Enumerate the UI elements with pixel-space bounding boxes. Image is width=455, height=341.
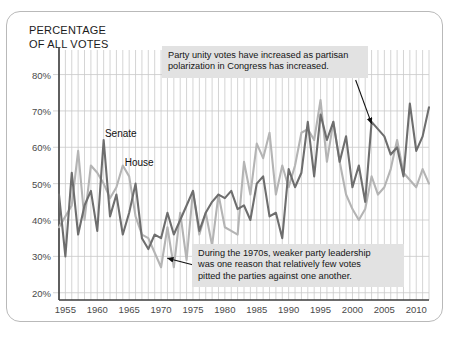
x-axis-tick-label: 2010 [406,304,427,315]
y-axis-tick-label: 20% [17,287,51,298]
x-axis-tick-label: 1960 [87,304,108,315]
x-axis-tick-label: 1970 [150,304,171,315]
y-axis-tick-label: 50% [17,178,51,189]
x-axis-tick-label: 1965 [119,304,140,315]
x-axis-tick-label: 2000 [342,304,363,315]
y-axis-tick-label: 70% [17,105,51,116]
series-label-house: House [125,157,154,168]
chart-figure-frame: PERCENTAGE OF ALL VOTES 20%30%40%50%60%7… [6,11,443,322]
x-axis-tick-label: 1980 [214,304,235,315]
arrow-to-senate-2003 [356,80,372,124]
x-axis-tick-label: 1955 [55,304,76,315]
x-axis-tick-label: 1990 [278,304,299,315]
series-label-senate: Senate [105,128,137,139]
x-axis-tick-label: 1985 [246,304,267,315]
x-axis-tick-label: 1975 [182,304,203,315]
y-axis-tick-label: 40% [17,215,51,226]
y-axis-tick-label: 30% [17,251,51,262]
annotation-polarization: Party unity votes have increased as part… [162,46,368,78]
y-axis-tick-label: 80% [17,69,51,80]
annotation-1970s: During the 1970s, weaker party leadershi… [192,244,404,287]
y-axis-tick-label: 60% [17,142,51,153]
x-axis-tick-label: 1995 [310,304,331,315]
x-axis-tick-label: 2005 [374,304,395,315]
